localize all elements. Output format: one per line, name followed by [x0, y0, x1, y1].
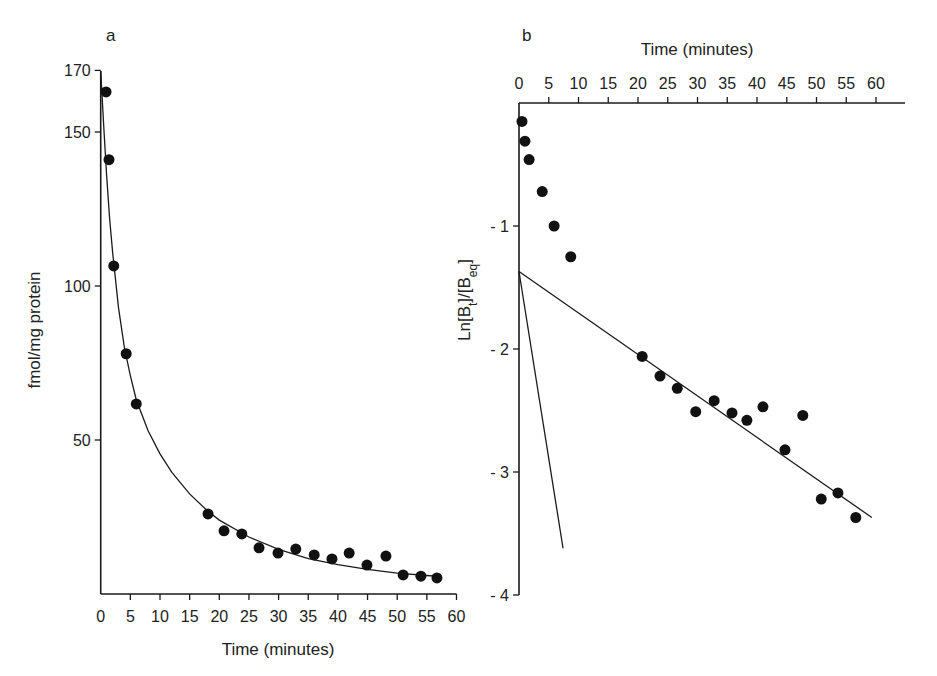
x-tick-label: 30 [270, 608, 288, 625]
panel-b: b Time (minutes) 05101520253035404550556… [455, 26, 905, 604]
data-point [519, 136, 530, 147]
data-point [709, 395, 720, 406]
data-point [549, 221, 560, 232]
y-tick-label: - 4 [490, 587, 509, 604]
y-tick-label: - 3 [490, 464, 509, 481]
data-point [637, 351, 648, 362]
panel-a-x-axis-title: Time (minutes) [222, 640, 335, 659]
data-point [309, 549, 320, 560]
x-tick-label: 15 [181, 608, 199, 625]
x-tick-label: 30 [689, 75, 707, 92]
data-point [727, 407, 738, 418]
panel-a-fit-curve [101, 71, 439, 576]
data-point [398, 569, 409, 580]
x-tick-label: 50 [808, 75, 826, 92]
data-point [816, 494, 827, 505]
data-point [380, 551, 391, 562]
data-point [273, 548, 284, 559]
panel-b-y-axis-title: Ln[Bt]/[Beq] [455, 259, 480, 341]
x-tick-label: 40 [748, 75, 766, 92]
y-tick-label: 50 [73, 432, 91, 449]
x-tick-label: 45 [359, 608, 377, 625]
panel-b-x-axis-title: Time (minutes) [641, 40, 754, 59]
x-tick-label: 35 [299, 608, 317, 625]
x-tick-label: 50 [388, 608, 406, 625]
data-point [203, 508, 214, 519]
x-tick-label: 15 [599, 75, 617, 92]
x-tick-label: 60 [867, 75, 885, 92]
fit-line [519, 272, 563, 549]
panel-a-label: a [106, 26, 116, 45]
x-tick-label: 60 [448, 608, 466, 625]
x-tick-label: 5 [126, 608, 135, 625]
y-tick-label: 150 [64, 124, 91, 141]
data-point [290, 544, 301, 555]
data-point [741, 415, 752, 426]
data-point [431, 572, 442, 583]
y-tick-label: 170 [64, 62, 91, 79]
x-tick-label: 20 [210, 608, 228, 625]
data-point [361, 560, 372, 571]
data-point [219, 525, 230, 536]
x-tick-label: 45 [778, 75, 796, 92]
data-point [832, 487, 843, 498]
data-point [101, 86, 112, 97]
x-tick-label: 55 [418, 608, 436, 625]
y-tick-label: - 1 [490, 218, 509, 235]
x-tick-label: 0 [96, 608, 105, 625]
data-point [672, 383, 683, 394]
panel-a-y-axis-title: fmol/mg protein [25, 271, 44, 388]
data-point [236, 528, 247, 539]
data-point [326, 553, 337, 564]
panel-b-axes: 051015202530354045505560- 1- 2- 3- 4 [490, 75, 905, 604]
data-point [797, 410, 808, 421]
data-point [104, 154, 115, 165]
figure: a 05101520253035404550556050100150170 Ti… [0, 0, 937, 676]
data-point [131, 398, 142, 409]
chart-canvas: a 05101520253035404550556050100150170 Ti… [0, 0, 937, 676]
data-point [537, 186, 548, 197]
panel-a-data-points [101, 86, 443, 583]
data-point [524, 154, 535, 165]
data-point [121, 348, 132, 359]
data-point [108, 260, 119, 271]
y-tick-label: - 2 [490, 341, 509, 358]
x-tick-label: 55 [837, 75, 855, 92]
x-tick-label: 40 [329, 608, 347, 625]
x-tick-label: 25 [659, 75, 677, 92]
x-tick-label: 25 [240, 608, 258, 625]
data-point [655, 371, 666, 382]
panel-b-data-points [516, 116, 861, 523]
x-tick-label: 35 [718, 75, 736, 92]
data-point [690, 406, 701, 417]
x-tick-label: 0 [515, 75, 524, 92]
data-point [344, 548, 355, 559]
x-tick-label: 10 [570, 75, 588, 92]
data-point [254, 542, 265, 553]
data-point [565, 251, 576, 262]
x-tick-label: 5 [544, 75, 553, 92]
data-point [415, 571, 426, 582]
fit-line [519, 272, 872, 518]
y-tick-label: 100 [64, 278, 91, 295]
data-point [850, 512, 861, 523]
panel-b-label: b [522, 26, 531, 45]
data-point [757, 401, 768, 412]
data-point [779, 444, 790, 455]
x-tick-label: 20 [629, 75, 647, 92]
x-tick-label: 10 [151, 608, 169, 625]
panel-a: a 05101520253035404550556050100150170 Ti… [25, 26, 466, 659]
data-point [516, 116, 527, 127]
